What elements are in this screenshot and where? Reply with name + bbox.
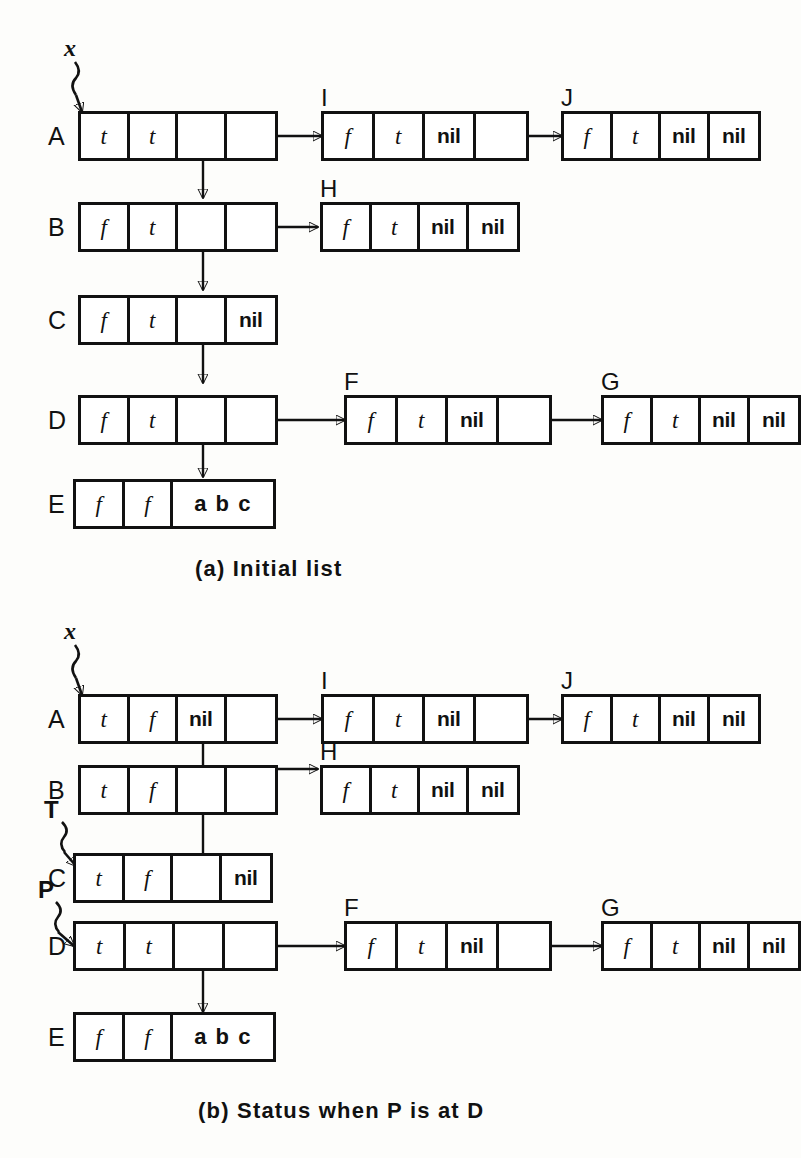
node-b-D: t t	[73, 921, 278, 971]
cell-b-D-3-pointer	[225, 924, 275, 968]
cell-a-C-1: t	[130, 298, 179, 342]
cell-a-D-3-pointer	[227, 398, 275, 442]
row-label-a-B: B	[48, 215, 65, 240]
node-label-b-G: G	[601, 896, 620, 920]
node-label-a-I: I	[321, 86, 328, 110]
cell-a-G-3: nil	[750, 398, 798, 442]
cell-a-A-0: t	[81, 114, 130, 158]
node-a-B: f t	[78, 202, 278, 252]
cell-b-C-3: nil	[222, 856, 270, 900]
node-label-b-I: I	[321, 669, 328, 693]
cell-b-C-0: t	[76, 856, 125, 900]
cell-a-C-0: f	[81, 298, 130, 342]
cell-b-E-1: f	[125, 1015, 174, 1059]
row-label-a-D: D	[48, 408, 66, 433]
cell-a-A-3-pointer	[227, 114, 275, 158]
cell-b-B-1: f	[130, 768, 179, 812]
cell-a-H-0: f	[323, 205, 372, 249]
cell-a-C-3: nil	[227, 298, 275, 342]
row-label-b-B: B	[48, 778, 65, 803]
cell-b-J-2: nil	[661, 697, 710, 741]
node-b-E: f f a b c	[73, 1012, 276, 1062]
row-label-b-A: A	[48, 707, 65, 732]
cell-b-G-3: nil	[750, 924, 798, 968]
cell-b-I-1: t	[375, 697, 426, 741]
cell-b-I-3-pointer	[476, 697, 526, 741]
node-a-C: f t nil	[78, 295, 278, 345]
cell-a-G-1: t	[653, 398, 702, 442]
node-a-E: f f a b c	[73, 479, 276, 529]
cell-b-A-3-pointer	[227, 697, 275, 741]
cell-b-H-1: t	[372, 768, 421, 812]
cell-b-C-2-pointer	[173, 856, 222, 900]
cell-b-J-1: t	[613, 697, 662, 741]
cell-b-J-3: nil	[710, 697, 758, 741]
cell-b-G-0: f	[604, 924, 653, 968]
node-label-b-F: F	[344, 896, 359, 920]
node-a-H: f t nil nil	[320, 202, 520, 252]
node-label-b-H: H	[320, 740, 337, 764]
cell-b-F-1: t	[398, 924, 449, 968]
cell-a-D-2-pointer	[178, 398, 227, 442]
cell-b-C-1: f	[125, 856, 174, 900]
cell-a-E-2: a b c	[173, 482, 273, 526]
cell-a-I-2: nil	[425, 114, 476, 158]
cell-b-H-3: nil	[469, 768, 517, 812]
cell-a-F-1: t	[398, 398, 449, 442]
cell-b-B-3-pointer	[227, 768, 275, 812]
row-label-b-D: D	[48, 934, 66, 959]
cell-a-I-3-pointer	[476, 114, 526, 158]
cell-a-B-1: t	[130, 205, 179, 249]
cell-b-F-3-pointer	[499, 924, 549, 968]
cell-a-I-1: t	[375, 114, 426, 158]
pointer-var-x-a: x	[64, 36, 76, 60]
cell-a-B-2-pointer	[178, 205, 227, 249]
cell-a-F-3-pointer	[499, 398, 549, 442]
cell-a-F-2: nil	[448, 398, 499, 442]
cell-b-D-2-pointer	[175, 924, 225, 968]
cell-a-I-0: f	[324, 114, 375, 158]
caption-a: (a) Initial list	[195, 556, 343, 582]
node-b-F: f t nil	[344, 921, 552, 971]
row-label-a-A: A	[48, 124, 65, 149]
cell-b-B-0: t	[81, 768, 130, 812]
cell-b-E-0: f	[76, 1015, 125, 1059]
cell-a-H-3: nil	[469, 205, 517, 249]
node-a-J: f t nil nil	[561, 111, 761, 161]
node-label-a-F: F	[344, 370, 359, 394]
row-label-b-E: E	[48, 1025, 65, 1050]
node-b-G: f t nil nil	[601, 921, 801, 971]
cell-b-A-2: nil	[178, 697, 227, 741]
node-label-b-J: J	[561, 669, 573, 693]
caption-b: (b) Status when P is at D	[198, 1098, 484, 1124]
pointer-var-x-b: x	[64, 619, 76, 643]
cell-b-B-2-pointer	[178, 768, 227, 812]
cell-a-D-0: f	[81, 398, 130, 442]
cell-a-A-1: t	[130, 114, 179, 158]
node-a-D: f t	[78, 395, 278, 445]
node-b-C: t f nil	[73, 853, 273, 903]
node-b-H: f t nil nil	[320, 765, 520, 815]
cell-b-I-2: nil	[425, 697, 476, 741]
cell-a-B-0: f	[81, 205, 130, 249]
cell-b-D-0: t	[76, 924, 126, 968]
cell-a-F-0: f	[347, 398, 398, 442]
cell-a-J-3: nil	[710, 114, 758, 158]
cell-a-B-3-pointer	[227, 205, 275, 249]
cell-a-A-2-pointer	[178, 114, 227, 158]
cell-a-J-2: nil	[661, 114, 710, 158]
cell-a-G-0: f	[604, 398, 653, 442]
node-b-B: t f	[78, 765, 278, 815]
cell-b-H-0: f	[323, 768, 372, 812]
cell-b-A-1: f	[130, 697, 179, 741]
cell-a-C-2-pointer	[178, 298, 227, 342]
cell-b-J-0: f	[564, 697, 613, 741]
cell-a-D-1: t	[130, 398, 179, 442]
cell-a-J-0: f	[564, 114, 613, 158]
row-label-b-C: C	[48, 866, 66, 891]
cell-a-H-2: nil	[420, 205, 469, 249]
cell-a-J-1: t	[613, 114, 662, 158]
cell-b-D-1: t	[126, 924, 176, 968]
cell-b-I-0: f	[324, 697, 375, 741]
